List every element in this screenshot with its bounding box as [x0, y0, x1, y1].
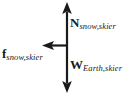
normal-force-label: Nsnow,skier: [70, 14, 116, 30]
weight-force-label: WEarth,skier: [70, 56, 122, 72]
friction-force-label: fsnow,skier: [2, 45, 43, 61]
weight-force-subscript: Earth,skier: [83, 63, 122, 73]
friction-force-arrow: [42, 41, 67, 50]
normal-force-symbol: N: [70, 15, 79, 30]
friction-force-subscript: snow,skier: [6, 52, 43, 62]
weight-force-symbol: W: [70, 57, 83, 72]
free-body-diagram: Nsnow,skier WEarth,skier fsnow,skier: [0, 0, 140, 95]
normal-force-subscript: snow,skier: [79, 21, 116, 31]
